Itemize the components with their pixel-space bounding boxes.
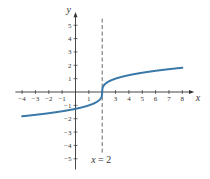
- y-tick-label: 4: [68, 35, 72, 43]
- y-tick-label: −4: [64, 142, 72, 150]
- x-tick-label: −4: [18, 95, 26, 103]
- x-tick-label: 5: [141, 95, 145, 103]
- x-tick-label: 4: [127, 95, 131, 103]
- x-tick-label: −3: [32, 95, 40, 103]
- y-tick-label: −1: [64, 102, 72, 110]
- x-tick-label: 7: [167, 95, 171, 103]
- y-tick-label: 5: [68, 22, 72, 30]
- x-axis-label: x: [195, 92, 201, 103]
- x-tick-label: 8: [181, 95, 185, 103]
- axes: [15, 12, 194, 170]
- y-tick-label: −5: [64, 155, 72, 163]
- x-tick-label: 6: [154, 95, 158, 103]
- y-tick-label: 2: [68, 62, 72, 70]
- x-tick-label: −2: [45, 95, 53, 103]
- y-axis-label: y: [66, 4, 72, 15]
- asymptote-label: x = 2: [89, 154, 112, 165]
- svg-text:x = 2: x = 2: [90, 154, 111, 165]
- y-tick-label: 1: [68, 75, 72, 83]
- y-tick-label: 3: [68, 48, 72, 56]
- y-tick-label: −3: [64, 129, 72, 137]
- y-tick-label: −2: [64, 115, 72, 123]
- x-tick-label: 3: [114, 95, 118, 103]
- chart-canvas: −4−3−2−11345678 −5−4−3−2−112345 x y x = …: [0, 0, 210, 179]
- x-tick-label: 1: [87, 95, 91, 103]
